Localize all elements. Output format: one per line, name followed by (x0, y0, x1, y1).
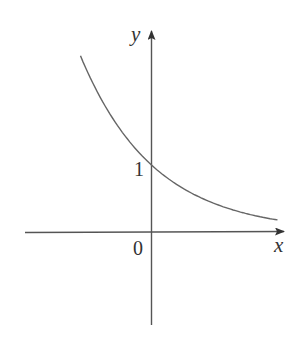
chart-canvas: y x 0 1 (0, 0, 308, 350)
y-intercept-label: 1 (134, 158, 144, 180)
exponential-graph-figure: y x 0 1 (0, 0, 308, 350)
y-axis-label: y (129, 22, 141, 46)
exponential-curve (81, 56, 278, 220)
x-axis (25, 232, 284, 233)
origin-label: 0 (133, 237, 143, 259)
x-axis-label: x (273, 233, 284, 257)
